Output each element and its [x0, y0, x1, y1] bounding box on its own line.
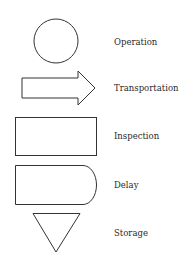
transportation-symbol: [22, 71, 95, 105]
storage-label: Storage: [114, 228, 148, 238]
transportation-label: Transportation: [114, 83, 178, 93]
inspection-symbol: [16, 118, 97, 156]
delay-symbol: [16, 166, 97, 205]
operation-label: Operation: [114, 37, 157, 47]
storage-symbol: [33, 214, 80, 253]
delay-label: Delay: [114, 180, 138, 190]
operation-symbol: [34, 19, 78, 63]
inspection-label: Inspection: [114, 131, 159, 141]
